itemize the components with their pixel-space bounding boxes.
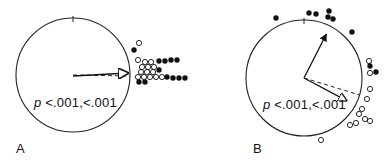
filled-data-point — [162, 58, 167, 63]
filled-data-point — [156, 58, 161, 63]
filled-data-point — [136, 79, 141, 84]
filled-data-point — [164, 74, 169, 79]
filled-data-point — [330, 16, 335, 21]
open-data-point — [142, 59, 147, 64]
filled-data-point — [373, 69, 378, 74]
open-data-point — [367, 86, 372, 91]
open-data-point — [141, 74, 146, 79]
open-data-point — [347, 122, 352, 127]
open-data-point — [318, 137, 323, 142]
panel-b-pvalue: p <.001,<.001 — [263, 97, 346, 112]
panel-b-p-symbol: p — [263, 97, 270, 112]
panel-a-label: A — [16, 141, 25, 156]
filled-data-point — [325, 14, 330, 19]
solid-mean-vector — [304, 34, 326, 78]
open-data-point — [147, 74, 152, 79]
open-data-point — [366, 58, 371, 63]
filled-data-point — [349, 29, 354, 34]
filled-data-point — [306, 10, 311, 15]
open-data-point — [159, 74, 164, 79]
filled-data-point — [313, 11, 318, 16]
filled-data-point — [176, 75, 181, 80]
panel-a-pvalue: p <.001,<.001 — [34, 95, 117, 110]
open-data-point — [136, 40, 141, 45]
open-data-point — [135, 74, 140, 79]
solid-mean-vector — [73, 73, 128, 76]
open-data-point — [367, 70, 372, 75]
filled-data-point — [367, 63, 372, 68]
filled-data-point — [168, 57, 173, 62]
panel-a-p-symbol: p — [34, 95, 41, 110]
filled-data-point — [156, 67, 161, 72]
panel-b-circle-plot — [246, 8, 379, 142]
filled-data-point — [273, 15, 278, 20]
open-data-point — [139, 64, 144, 69]
open-data-point — [148, 59, 153, 64]
filled-data-point — [182, 75, 187, 80]
open-data-point — [151, 64, 156, 69]
open-data-point — [145, 64, 150, 69]
panel-a-circle-plot — [16, 16, 188, 132]
open-data-point — [153, 74, 158, 79]
open-data-point — [356, 111, 361, 116]
panel-a-pvalue-text: <.001,<.001 — [45, 95, 117, 110]
filled-data-point — [131, 47, 136, 52]
open-data-point — [359, 106, 364, 111]
filled-data-point — [326, 8, 331, 13]
filled-data-point — [174, 57, 179, 62]
open-data-point — [135, 57, 140, 62]
open-data-point — [353, 120, 358, 125]
open-data-point — [150, 69, 155, 74]
open-data-point — [367, 118, 372, 123]
panel-b-pvalue-text: <.001,<.001 — [274, 97, 346, 112]
open-data-point — [138, 69, 143, 74]
filled-data-point — [170, 75, 175, 80]
open-data-point — [362, 116, 367, 121]
panel-b-label: B — [253, 141, 262, 156]
filled-data-point — [142, 79, 147, 84]
open-data-point — [364, 96, 369, 101]
open-data-point — [144, 69, 149, 74]
circular-plots-figure — [0, 0, 391, 163]
